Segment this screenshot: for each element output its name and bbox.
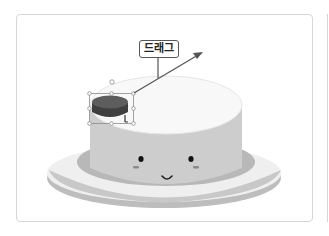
right-eye	[188, 156, 193, 162]
left-eye	[138, 156, 143, 162]
left-blush	[133, 166, 139, 169]
right-blush	[193, 166, 199, 169]
drag-callout-label: 드래그	[139, 40, 179, 58]
topping-object[interactable]	[92, 96, 128, 118]
rotate-handle	[110, 80, 114, 84]
cake-illustration	[0, 0, 329, 236]
